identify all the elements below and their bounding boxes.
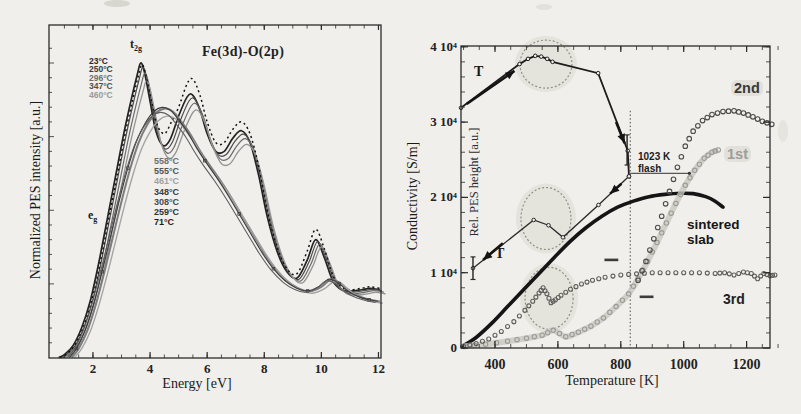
sintered-slab-label: sintered slab: [687, 217, 740, 247]
axis-tick-label: 400: [485, 357, 506, 373]
run-label-2nd: 2nd: [731, 80, 763, 96]
scan-smudge: [778, 120, 788, 142]
scan-smudge: [536, 4, 552, 10]
series-3rd: [462, 270, 777, 349]
axis-tick-label: 1 10⁴: [430, 265, 457, 281]
flash-annotation: 1023 K flash: [638, 151, 670, 174]
axis-tick-label: 1200: [733, 357, 761, 373]
plots-svg: [0, 0, 801, 414]
axis-tick-label: 2: [90, 361, 97, 377]
axis-tick-label: 2 10⁴: [430, 189, 457, 205]
run-label-1st: 1st: [724, 146, 751, 162]
temperature-direction-label-top: T: [474, 64, 483, 80]
t2g-orbital-label: t2g: [130, 37, 142, 53]
highlight-halo: [520, 263, 578, 333]
axis-tick-label: 8: [261, 361, 268, 377]
temperature-legend-item: 71°C: [154, 217, 179, 227]
figure-canvas: Normalized PES intensity [a.u.] Energy […: [0, 0, 801, 414]
axis-tick-label: 4 10⁴: [430, 39, 457, 55]
flash-connector-end: [688, 172, 691, 175]
temperature-direction-label-bottom: T: [495, 246, 504, 262]
axis-tick-label: 10: [315, 361, 328, 377]
axis-tick-label: 4: [147, 361, 154, 377]
temperature-legend-item: 348°C: [154, 187, 179, 197]
left-plot-title: Fe(3d)-O(2p): [202, 44, 284, 60]
right-y-axis-label: Conductivity [S/m]: [405, 142, 421, 251]
temperature-legend-item: 555°C: [154, 166, 179, 176]
axis-tick-label: 800: [610, 357, 631, 373]
heating-temp-legend: 23°C250°C296°C347°C460°C: [89, 57, 113, 99]
temperature-legend-item: 308°C: [154, 197, 179, 207]
scan-smudge: [104, 0, 130, 7]
left-x-axis-label: Energy [eV]: [162, 376, 231, 392]
pes-curve-23C: [59, 63, 380, 358]
axis-tick-label: 12: [372, 361, 385, 377]
temperature-legend-item: 461°C: [154, 176, 179, 186]
left-y-axis-label: Normalized PES intensity [a.u.]: [28, 101, 44, 279]
temperature-legend-item: 259°C: [154, 207, 179, 217]
run-label-3rd: 3rd: [723, 291, 745, 307]
eg-orbital-label: eg: [88, 208, 97, 224]
highlight-halo: [515, 36, 577, 92]
cooling-temp-legend: 558°C555°C461°C348°C308°C259°C71°C: [154, 156, 179, 227]
axis-tick-label: 1000: [670, 357, 698, 373]
temperature-legend-item: 558°C: [154, 156, 179, 166]
axis-tick-label: 0: [451, 340, 458, 356]
axis-tick-label: 3 10⁴: [430, 114, 457, 130]
axis-tick-label: 600: [547, 357, 568, 373]
right-x-axis-label: Temperature [K]: [565, 373, 658, 389]
axis-tick-label: 6: [204, 361, 211, 377]
pes-curve-348C-markers: [69, 107, 377, 357]
temperature-legend-item: 460°C: [89, 91, 113, 99]
right-y2-axis-label: Rel. PES height [a.u.]: [467, 127, 482, 236]
